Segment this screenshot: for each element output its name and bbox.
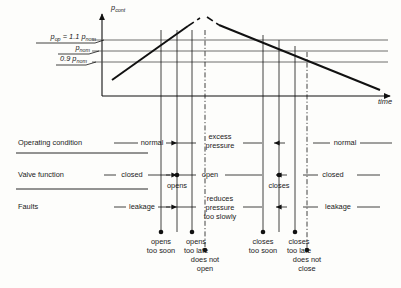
state-leakage-left: leakage [129, 203, 155, 211]
pressure-curve-fall-dashed-tip [207, 17, 219, 25]
row-label-valve-function: Valve function [18, 171, 64, 179]
state-leakage-right: leakage [325, 203, 351, 211]
y-axis-label: pcont [111, 4, 125, 12]
fault-does-not-open-line2: open [197, 265, 213, 273]
pressure-curve [112, 17, 380, 90]
event-dot-closes [277, 173, 282, 178]
state-normal-left: normal [141, 139, 164, 147]
level-label-0-9-p-nom: 0.9 pnom [60, 55, 87, 63]
level-label-p-nom: pnom [75, 44, 90, 52]
row-label-operating-condition: Operating condition [18, 139, 82, 147]
level-label-p-op: pop = 1.1 pnom [51, 33, 97, 41]
state-excess-pressure-line2: pressure [206, 142, 235, 150]
event-dot-opens [175, 173, 180, 178]
fault-dot-opens-too-soon [159, 230, 164, 235]
fault-dot-opens-too-late [190, 230, 195, 235]
event-label-opens: opens [167, 182, 187, 190]
event-guide-lines-left [161, 30, 205, 250]
state-open: open [202, 171, 218, 179]
fault-does-not-close-line2: close [298, 265, 315, 273]
fault-dot-closes-too-soon [261, 230, 266, 235]
axis-group [102, 14, 390, 96]
leader-slant-p-nom [89, 51, 99, 54]
state-closed-right: closed [322, 171, 343, 179]
event-label-closes: closes [269, 182, 290, 190]
fault-closes-too-soon-line2: too soon [249, 247, 277, 255]
fault-opens-too-soon-line2: too soon [147, 247, 175, 255]
fault-dot-closes-too-late [293, 230, 298, 235]
pressure-curve-rise-dashed-tip [188, 18, 200, 26]
event-guide-lines-right [263, 35, 307, 250]
state-reduces-pressure-line3: too slowly [204, 213, 236, 221]
x-axis-label: time [378, 98, 392, 106]
threshold-lines [92, 40, 388, 62]
row-label-faults: Faults [18, 203, 38, 211]
leader-slant-0-9-p-nom [86, 62, 96, 65]
state-normal-right: normal [334, 139, 357, 147]
pressure-valve-timing-diagram: pcont time pop = 1.1 pnom pnom 0.9 pnom … [0, 0, 401, 288]
state-closed-left: closed [121, 171, 142, 179]
pressure-curve-falling-edge [219, 25, 380, 90]
